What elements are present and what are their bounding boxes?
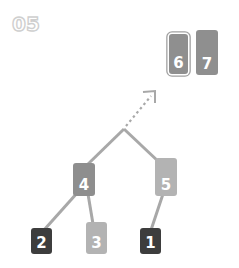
tree-node-2: 2 — [31, 228, 52, 254]
tree-node-5: 5 — [155, 158, 177, 196]
arrow-head-icon — [143, 91, 155, 103]
merge-arrow-line — [126, 96, 151, 126]
tree-node-3-label: 3 — [91, 234, 101, 252]
edge-5-1 — [151, 194, 163, 230]
tree-node-1-label: 1 — [145, 234, 155, 252]
tree-node-1: 1 — [140, 228, 161, 254]
tree-node-3: 3 — [86, 222, 107, 254]
edge-root-4 — [86, 129, 124, 166]
stack-box-6-label: 6 — [173, 54, 183, 72]
edge-root-5 — [124, 129, 160, 163]
edge-4-2 — [44, 192, 78, 230]
stack-box-6: 6 — [169, 34, 188, 74]
tree-node-5-label: 5 — [161, 176, 171, 194]
tree-node-4: 4 — [73, 163, 95, 196]
tree-node-4-label: 4 — [79, 176, 89, 194]
stack-box-7-label: 7 — [202, 55, 212, 73]
tree-node-2-label: 2 — [36, 234, 46, 252]
stack-box-7: 7 — [196, 30, 218, 75]
